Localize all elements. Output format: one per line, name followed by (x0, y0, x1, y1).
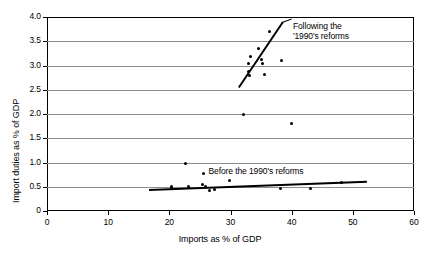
y-axis-tick-label: 3.5 (7, 35, 41, 45)
gridline (47, 90, 414, 91)
x-axis-tick (108, 211, 109, 215)
data-point (279, 187, 282, 190)
x-axis-tick (414, 211, 415, 215)
x-axis-tick-label: 10 (88, 217, 128, 227)
x-axis-tick-label: 60 (394, 217, 434, 227)
x-axis-tick-label: 20 (149, 217, 189, 227)
x-axis-title: Imports as % of GDP (0, 234, 440, 244)
data-point (309, 187, 312, 190)
x-axis-tick (169, 211, 170, 215)
y-axis-tick (43, 163, 47, 164)
gridline (47, 114, 414, 115)
y-axis-tick (43, 114, 47, 115)
x-axis-tick-label: 40 (272, 217, 312, 227)
y-axis-tick (43, 66, 47, 67)
data-point (261, 62, 264, 65)
gridline (47, 138, 414, 139)
x-axis-tick-label: 0 (27, 217, 67, 227)
data-point (208, 189, 211, 192)
x-axis-tick (47, 211, 48, 215)
x-axis-tick (353, 211, 354, 215)
x-axis-tick-label: 30 (211, 217, 251, 227)
gridline (47, 41, 414, 42)
y-axis-tick (43, 90, 47, 91)
scatter-chart: 00.51.01.52.02.53.03.54.0 0102030405060 … (0, 0, 440, 264)
y-axis-tick (43, 41, 47, 42)
y-axis-tick (43, 17, 47, 18)
data-point (249, 55, 252, 58)
gridline (47, 66, 414, 67)
data-point (280, 59, 283, 62)
y-axis-tick-label: 3.0 (7, 60, 41, 70)
data-point (184, 162, 187, 165)
y-axis-tick-label: 4.0 (7, 11, 41, 21)
y-axis-tick (43, 187, 47, 188)
y-axis-tick (43, 138, 47, 139)
data-point (268, 30, 271, 33)
annotation-following-line1: Following the (293, 21, 342, 31)
data-point (202, 172, 205, 175)
y-axis-title: Import duties as % of GDP (11, 99, 21, 203)
x-axis-tick (231, 211, 232, 215)
annotation-following-reforms: Following the'1990's reforms (293, 21, 349, 42)
y-axis-tick-label: 2.5 (7, 84, 41, 94)
gridline (47, 163, 414, 164)
x-axis-tick-label: 50 (333, 217, 373, 227)
y-axis-tick (43, 211, 47, 212)
y-axis-tick-label: 0 (7, 205, 41, 215)
x-axis-tick (292, 211, 293, 215)
annotation-before-reforms: Before the 1990's reforms (208, 166, 303, 177)
annotation-following-line2: '1990's reforms (293, 31, 349, 41)
